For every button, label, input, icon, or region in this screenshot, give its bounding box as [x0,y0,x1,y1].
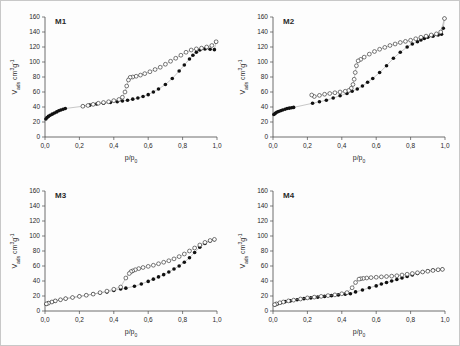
data-point-desorption [179,53,183,57]
data-point-adsorption [366,80,370,84]
data-point-desorption [121,95,125,99]
data-point-desorption [44,302,48,306]
y-tick-label: 100 [257,58,268,65]
data-point-adsorption [141,95,145,99]
data-point-desorption [91,292,95,296]
y-tick-label: 20 [33,118,41,125]
figure-container: 0204060801001201401600,00,20,40,60,81,0p… [0,0,460,346]
data-point-desorption [333,91,337,95]
data-point-desorption [84,293,88,297]
data-point-adsorption [64,107,68,111]
data-point-desorption [98,291,102,295]
data-point-desorption [139,73,143,77]
data-point-adsorption [152,90,156,94]
x-tick-label: 0,0 [40,142,49,149]
y-tick-label: 80 [33,247,41,254]
x-tick-label: 0,2 [303,142,312,149]
data-point-desorption [169,59,173,63]
x-tick-label: 0,6 [372,142,381,149]
data-point-adsorption [385,281,389,285]
data-point-adsorption [193,251,197,255]
data-point-adsorption [361,288,365,292]
data-point-adsorption [395,278,399,282]
data-point-desorption [439,30,443,34]
axis-lines [273,191,445,311]
data-point-desorption [318,93,322,97]
data-point-desorption [172,257,176,261]
x-tick-label: 0,0 [268,142,277,149]
data-point-adsorption [167,270,171,274]
plot-M1: 0204060801001201401600,00,20,40,60,81,0p… [5,3,227,171]
data-point-desorption [81,104,85,108]
x-tick-label: 1,0 [440,316,449,323]
y-tick-label: 160 [257,187,268,194]
y-tick-label: 20 [33,292,41,299]
plot-M4: 0204060801001201401600,00,20,40,60,81,0p… [233,177,455,345]
panel-M3: 0204060801001201401600,00,20,40,60,81,0p… [5,177,227,345]
data-point-desorption [188,249,192,253]
y-tick-label: 120 [29,217,40,224]
data-point-desorption [189,48,193,52]
data-point-desorption [362,55,366,59]
x-tick-label: 0,6 [144,142,153,149]
data-point-desorption [333,293,337,297]
data-point-desorption [323,92,327,96]
data-point-desorption [404,39,408,43]
data-point-adsorption [398,50,402,54]
data-point-adsorption [213,48,217,52]
x-tick-label: 0,4 [109,316,118,323]
x-tick-label: 0,2 [75,142,84,149]
panel-M2: 0204060801001201401600,00,20,40,60,81,0p… [233,3,455,171]
data-point-desorption [184,50,188,54]
y-tick-label: 100 [29,58,40,65]
data-point-desorption [151,263,155,267]
data-point-adsorption [354,290,358,294]
y-tick-label: 100 [29,232,40,239]
data-point-adsorption [177,264,181,268]
data-point-desorption [436,268,440,272]
data-point-adsorption [172,267,176,271]
data-point-desorption [119,285,123,289]
data-point-adsorption [390,279,394,283]
data-point-desorption [273,303,277,307]
panel-title: M4 [283,191,295,200]
data-point-desorption [351,83,355,87]
x-tick-label: 1,0 [212,316,221,323]
data-point-desorption [431,269,435,273]
data-point-desorption [443,17,447,21]
data-point-desorption [91,102,95,106]
data-point-desorption [143,72,147,76]
data-point-adsorption [331,96,335,100]
data-point-desorption [112,287,116,291]
y-tick-label: 160 [29,13,40,20]
y-tick-label: 140 [257,202,268,209]
x-axis-label: p/p0 [125,328,138,338]
data-point-adsorption [146,280,150,284]
x-tick-label: 1,0 [212,142,221,149]
x-tick-label: 0,8 [178,316,187,323]
data-point-desorption [393,42,397,46]
data-point-desorption [419,35,423,39]
data-point-desorption [174,56,178,60]
y-tick-label: 20 [261,292,269,299]
data-point-desorption [213,237,217,241]
data-point-desorption [410,272,414,276]
data-point-adsorption [368,286,372,290]
data-point-adsorption [311,101,315,105]
x-tick-label: 0,6 [372,316,381,323]
x-tick-label: 0,8 [406,316,415,323]
data-point-desorption [326,294,330,298]
data-point-adsorption [136,96,140,100]
data-point-adsorption [188,57,192,61]
data-point-desorption [355,64,359,68]
data-point-desorption [426,269,430,273]
data-point-desorption [429,33,433,37]
plot-M2: 0204060801001201401600,00,20,40,60,81,0p… [233,3,455,171]
data-point-desorption [164,62,168,66]
data-point-desorption [105,289,109,293]
data-point-adsorption [361,84,365,88]
data-point-desorption [400,273,404,277]
data-point-adsorption [146,93,150,97]
y-tick-label: 120 [29,43,40,50]
data-point-desorption [354,281,358,285]
